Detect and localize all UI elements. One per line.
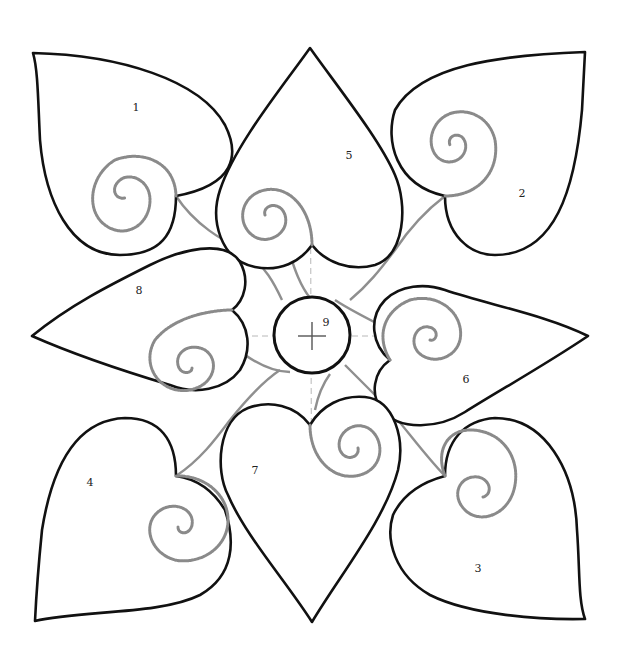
piece-5-label: 5 [346, 149, 353, 162]
piece-2-shape [392, 52, 585, 255]
quilt-pattern: 1 2 3 4 5 6 7 8 9 [0, 0, 618, 661]
piece-1-label: 1 [133, 101, 140, 114]
piece-6-label: 6 [463, 373, 470, 386]
piece-6-shape [374, 286, 588, 425]
piece-7-label: 7 [252, 464, 259, 477]
piece-9-label: 9 [323, 316, 330, 329]
piece-4-shape [35, 418, 231, 621]
piece-2-label: 2 [519, 187, 526, 200]
piece-8-label: 8 [136, 284, 143, 297]
piece-3-label: 3 [475, 562, 482, 575]
piece-5-shape [216, 48, 402, 268]
piece-4-label: 4 [87, 476, 94, 489]
pattern-drawing [0, 0, 618, 661]
piece-8-shape [32, 248, 248, 390]
